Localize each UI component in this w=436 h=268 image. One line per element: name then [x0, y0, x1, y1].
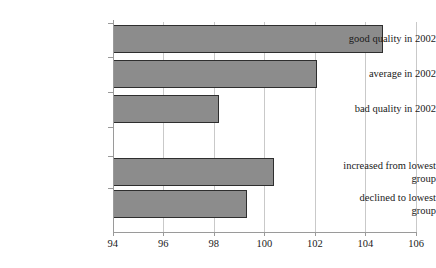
y-tick-5: [108, 188, 113, 189]
x-tick-label-96: 96: [143, 238, 183, 249]
x-tick-106: [416, 232, 417, 236]
category-label-average-2002: average in 2002: [330, 68, 436, 81]
category-label-line1: good quality in 2002: [349, 33, 436, 44]
category-label-line1: average in 2002: [369, 68, 436, 79]
bar-chart: good quality in 2002 average in 2002 bad…: [0, 0, 436, 268]
x-tick-104: [365, 232, 366, 236]
gridline-100: [264, 22, 265, 232]
category-label-declined-to-lowest-group: declined to lowest group: [330, 192, 436, 217]
x-tick-label-102: 102: [295, 238, 335, 249]
category-label-good-quality-2002: good quality in 2002: [330, 33, 436, 46]
x-tick-label-98: 98: [194, 238, 234, 249]
y-tick-0: [108, 23, 113, 24]
x-tick-98: [214, 232, 215, 236]
y-tick-1: [108, 57, 113, 58]
x-tick-102: [315, 232, 316, 236]
y-tick-3: [108, 127, 113, 128]
bar-bad-quality-2002: [113, 95, 219, 123]
x-tick-96: [163, 232, 164, 236]
bar-increased-from-lowest-group: [113, 158, 275, 186]
x-tick-label-106: 106: [396, 238, 436, 249]
x-tick-94: [113, 232, 114, 236]
gridline-102: [315, 22, 316, 232]
category-label-line1: increased from lowest: [343, 160, 436, 171]
category-label-line2: group: [412, 205, 436, 216]
x-tick-label-94: 94: [93, 238, 133, 249]
bar-declined-to-lowest-group: [113, 190, 247, 218]
x-tick-label-100: 100: [244, 238, 284, 249]
category-label-increased-from-lowest-group: increased from lowest group: [330, 160, 436, 185]
x-tick-label-104: 104: [345, 238, 385, 249]
y-tick-4: [108, 156, 113, 157]
category-label-bad-quality-2002: bad quality in 2002: [330, 103, 436, 116]
category-label-line1: declined to lowest: [360, 192, 436, 203]
x-tick-100: [264, 232, 265, 236]
category-label-line1: bad quality in 2002: [355, 103, 436, 114]
y-tick-2: [108, 92, 113, 93]
bar-average-2002: [113, 60, 318, 88]
category-label-line2: group: [412, 173, 436, 184]
